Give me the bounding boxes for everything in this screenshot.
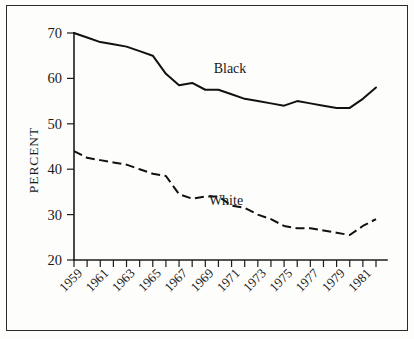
x-tick-labels: 1959196119631965196719691971197319751977… [56,265,374,294]
x-tick-label: 1969 [187,266,216,295]
x-tick-label: 1971 [214,266,243,295]
x-tick-label: 1975 [266,266,295,295]
y-axis-group: 203040506070 PERCENT [26,25,74,268]
x-tick-label: 1977 [292,265,321,294]
x-tick-label: 1963 [109,266,138,295]
y-axis-title: PERCENT [26,127,41,193]
line-chart-canvas: 203040506070 PERCENT 1959196119631965196… [0,0,414,339]
x-tick-label: 1973 [240,266,269,295]
x-axis-group: 1959196119631965196719691971197319751977… [56,260,387,295]
x-tick-label: 1967 [161,265,190,294]
y-tick-label: 50 [48,116,63,132]
y-tick-label: 70 [48,25,63,41]
series-annotation-black: Black [214,61,247,76]
x-tick-label: 1981 [345,266,374,295]
series-annotations: Black White [209,61,246,208]
chart-figure: 203040506070 PERCENT 1959196119631965196… [0,0,414,339]
y-tick-label: 30 [48,207,63,223]
x-tick-marks [74,260,376,267]
x-tick-label: 1961 [82,266,111,295]
series-annotation-white: White [209,193,243,208]
y-tick-marks [67,33,74,260]
y-tick-label: 60 [48,70,63,86]
y-tick-label: 20 [48,252,63,268]
x-tick-label: 1979 [319,266,348,295]
y-tick-labels: 203040506070 [48,25,63,268]
x-tick-label: 1959 [56,266,85,295]
y-tick-label: 40 [48,161,63,177]
x-tick-label: 1965 [135,266,164,295]
